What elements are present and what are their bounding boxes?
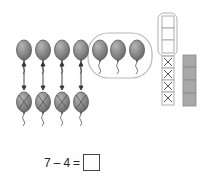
crossed-balloon-icon [74,92,89,126]
subtraction-equation: 7 – 4 = [44,154,100,171]
top-balloons [17,40,145,74]
balloon-subtraction-diagram [0,0,204,181]
crossed-balloon-icon [36,92,51,126]
subtrahend: 4 [63,156,70,170]
minus-sign: – [54,156,61,170]
cube-tower [162,16,174,105]
balloon-icon [111,40,126,74]
crossed-balloon-icon [17,92,32,126]
equals-sign: = [73,156,80,170]
matching-arrows [22,62,83,90]
answer-box[interactable] [83,154,100,171]
minuend: 7 [44,156,51,170]
crossed-balloons [17,92,89,126]
crossed-balloon-icon [55,92,70,126]
balloon-icon [130,40,145,74]
balloon-icon [93,40,108,74]
shaded-cubes [183,55,196,106]
